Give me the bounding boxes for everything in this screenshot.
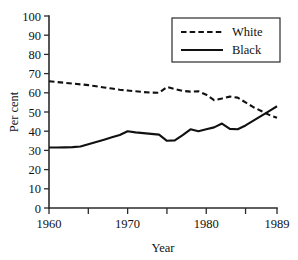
x-tick-label: 1960 [37, 217, 62, 231]
y-tick-label: 100 [22, 10, 41, 24]
y-tick-label: 70 [29, 67, 42, 81]
legend: White Black [172, 18, 280, 62]
y-axis-ticks: 0102030405060708090100 [22, 10, 49, 216]
x-axis-title: Year [151, 241, 175, 255]
series-line-white [49, 81, 277, 117]
x-axis-ticks: 1960197019801989 [37, 208, 290, 231]
y-axis-title: Per cent [7, 91, 21, 132]
y-tick-label: 10 [29, 182, 42, 196]
y-tick-label: 30 [29, 144, 42, 158]
x-tick-label: 1980 [194, 217, 219, 231]
x-tick-label: 1970 [115, 217, 140, 231]
y-tick-label: 60 [29, 86, 42, 100]
line-chart: 0102030405060708090100 1960197019801989 … [0, 0, 298, 260]
y-tick-label: 80 [29, 48, 42, 62]
legend-box [172, 18, 280, 62]
series-group [49, 81, 277, 147]
series-line-black [49, 106, 277, 147]
x-tick-label: 1989 [265, 217, 290, 231]
chart-canvas: 0102030405060708090100 1960197019801989 … [0, 0, 298, 260]
legend-label-black: Black [232, 43, 262, 57]
legend-label-white: White [232, 25, 263, 39]
y-tick-label: 0 [35, 202, 41, 216]
y-tick-label: 40 [29, 125, 42, 139]
y-tick-label: 20 [29, 163, 42, 177]
y-tick-label: 50 [29, 106, 42, 120]
y-tick-label: 90 [29, 29, 42, 43]
